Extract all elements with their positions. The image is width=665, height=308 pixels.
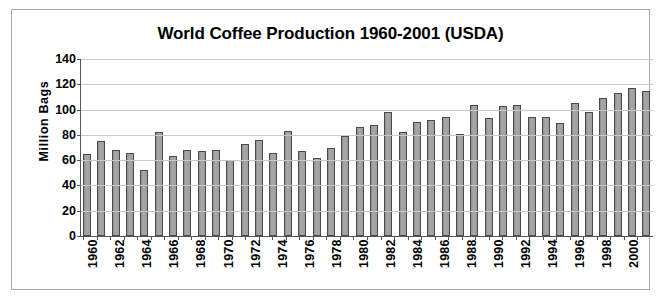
bar [284, 131, 292, 236]
chart-container: World Coffee Production 1960-2001 (USDA)… [11, 9, 650, 290]
bar [556, 123, 564, 236]
bar [183, 150, 191, 236]
bar [255, 140, 263, 236]
bar [112, 150, 120, 236]
bar [269, 153, 277, 236]
bar [169, 156, 177, 236]
x-axis-tick-labels: 1960196219641966196819701972197419761978… [80, 241, 652, 289]
bar [97, 141, 105, 236]
bar [485, 118, 493, 236]
x-tick-label-1996: 1996 [573, 239, 587, 268]
x-tick-label-1970: 1970 [222, 239, 236, 268]
bar [499, 106, 507, 236]
x-tick-label-1964: 1964 [140, 239, 154, 268]
bar [226, 160, 234, 236]
bar [384, 112, 392, 236]
y-tick-mark-60 [77, 160, 81, 161]
gridline-100 [81, 110, 653, 111]
bar [513, 105, 521, 236]
x-tick-label-1988: 1988 [465, 239, 479, 268]
bar [155, 132, 163, 236]
x-tick-label-1962: 1962 [113, 239, 127, 268]
bar [599, 98, 607, 236]
x-tick-label-1976: 1976 [303, 239, 317, 268]
gridline-80 [81, 135, 653, 136]
x-tick-label-1966: 1966 [167, 239, 181, 268]
y-tick-mark-120 [77, 84, 81, 85]
bar [313, 158, 321, 236]
y-tick-mark-80 [77, 135, 81, 136]
bar [212, 150, 220, 236]
y-tick-label-0: 0 [40, 231, 76, 241]
bar [399, 132, 407, 236]
y-tick-label-60: 60 [40, 155, 76, 165]
y-tick-label-20: 20 [40, 206, 76, 216]
gridline-40 [81, 185, 653, 186]
x-tick-label-1974: 1974 [276, 239, 290, 268]
gridline-20 [81, 211, 653, 212]
bar-series [81, 59, 653, 236]
gridline-0 [81, 236, 653, 237]
x-tick-label-1994: 1994 [546, 239, 560, 268]
plot-area [80, 59, 653, 237]
bar [241, 144, 249, 236]
y-tick-label-80: 80 [40, 130, 76, 140]
x-tick-label-1990: 1990 [492, 239, 506, 268]
x-tick-label-1978: 1978 [330, 239, 344, 268]
x-tick-label-2000: 2000 [627, 239, 641, 268]
bar [585, 112, 593, 236]
gridline-140 [81, 59, 653, 60]
bar [470, 105, 478, 236]
bar [370, 125, 378, 236]
bar [198, 151, 206, 236]
x-tick-label-1986: 1986 [438, 239, 452, 268]
x-tick-label-1972: 1972 [249, 239, 263, 268]
y-tick-label-40: 40 [40, 180, 76, 190]
bar [427, 120, 435, 236]
gridline-60 [81, 160, 653, 161]
x-tick-label-1992: 1992 [519, 239, 533, 268]
x-tick-label-1984: 1984 [411, 239, 425, 268]
y-axis-tick-labels: 020406080100120140 [40, 59, 76, 236]
x-tick-label-1968: 1968 [194, 239, 208, 268]
bar [356, 127, 364, 236]
y-tick-label-120: 120 [40, 79, 76, 89]
y-tick-mark-40 [77, 185, 81, 186]
x-tick-label-1960: 1960 [86, 239, 100, 268]
y-tick-mark-140 [77, 59, 81, 60]
bar [140, 170, 148, 236]
bar [642, 91, 650, 236]
plot-wrapper: Million Bags 020406080100120140 19601962… [12, 10, 649, 289]
x-tick-label-1980: 1980 [357, 239, 371, 268]
y-tick-mark-100 [77, 110, 81, 111]
bar [571, 103, 579, 236]
gridline-120 [81, 84, 653, 85]
y-tick-label-140: 140 [40, 54, 76, 64]
bar [413, 122, 421, 236]
y-tick-mark-0 [77, 236, 81, 237]
bar [83, 154, 91, 236]
x-tick-label-1998: 1998 [600, 239, 614, 268]
x-tick-label-1982: 1982 [384, 239, 398, 268]
bar [614, 93, 622, 236]
bar [126, 153, 134, 236]
y-tick-mark-20 [77, 211, 81, 212]
y-tick-label-100: 100 [40, 105, 76, 115]
bar [298, 151, 306, 236]
